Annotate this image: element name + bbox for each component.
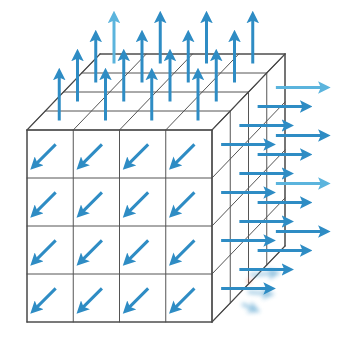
orange-marker-dot — [247, 279, 251, 283]
faded-arrow — [248, 292, 270, 294]
figure-container — [0, 0, 340, 342]
cube-diagram-svg — [0, 0, 340, 342]
faded-arrow — [250, 273, 276, 275]
diagram-background — [0, 0, 340, 342]
